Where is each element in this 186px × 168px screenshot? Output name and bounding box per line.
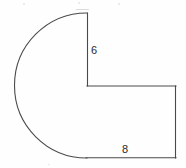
dimension-label-height: 6 <box>91 45 97 56</box>
arc-path <box>15 13 88 158</box>
scan-artifact-speck <box>78 2 80 4</box>
geometry-figure-canvas: 6 8 <box>0 0 186 168</box>
scan-artifact-speck <box>23 3 25 5</box>
dimension-label-width: 8 <box>122 144 128 155</box>
geometry-figure-svg <box>0 0 186 168</box>
scan-artifact-smudge <box>76 9 89 10</box>
scan-artifact-speck <box>118 3 120 5</box>
scan-artifact-speck <box>48 164 50 165</box>
